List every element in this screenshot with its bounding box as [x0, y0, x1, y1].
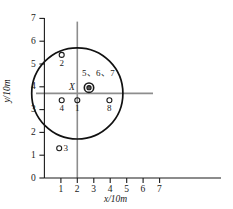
x-tick-label-7: 7: [157, 185, 162, 195]
data-point-label-2: 2: [59, 59, 64, 68]
y-tick-label-6: 6: [31, 37, 36, 47]
data-point-marker-4: [59, 98, 64, 103]
x-tick-label-6: 6: [141, 185, 146, 195]
data-point-marker-8: [107, 98, 112, 103]
x-tick-label-2: 2: [75, 185, 80, 195]
y-tick-label-2: 2: [31, 128, 36, 138]
data-point-label-3: 3: [63, 144, 68, 153]
data-point-label-4: 4: [59, 104, 64, 113]
x-axis-title: x/10m: [104, 195, 127, 205]
scatter-plot-figure: 0 1 2 3 4 5 6 7 1 2 3 4 5 6 7 y/10m x/10…: [0, 0, 233, 209]
x-axis-ticks: [61, 178, 160, 183]
y-tick-label-4: 4: [31, 82, 36, 92]
data-point-marker-3: [57, 146, 62, 151]
x-tick-label-3: 3: [91, 185, 96, 195]
data-point-label-567: 5、6、7: [82, 69, 115, 78]
y-tick-label-1: 1: [31, 151, 36, 161]
data-point-label-1: 1: [75, 104, 80, 113]
y-axis-title-wrapper: y/10m: [0, 62, 14, 122]
y-tick-label-0: 0: [31, 174, 36, 184]
x-position-annotation: X: [69, 83, 75, 93]
data-point-marker-2: [59, 52, 64, 57]
y-tick-label-7: 7: [31, 14, 36, 24]
y-axis-title: y/10m: [2, 64, 12, 118]
x-tick-label-1: 1: [58, 185, 63, 195]
data-point-label-8: 8: [107, 104, 112, 113]
data-point-marker-567: [84, 83, 93, 92]
y-tick-label-3: 3: [31, 105, 36, 115]
y-tick-label-5: 5: [31, 60, 36, 70]
y-axis-ticks: [39, 18, 44, 178]
